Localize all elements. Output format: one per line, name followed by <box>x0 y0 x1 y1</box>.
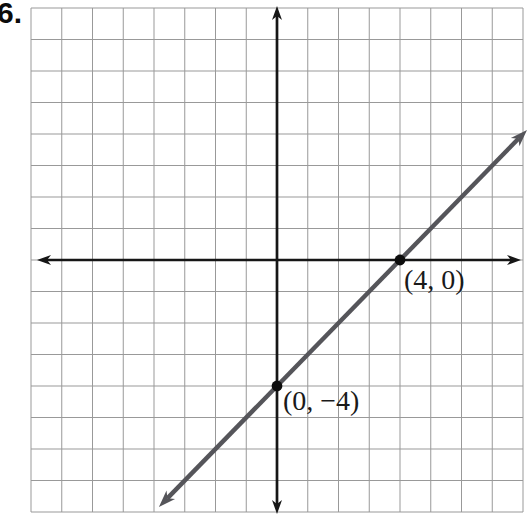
graph-figure: (4, 0)(0, −4) 6. <box>0 0 529 520</box>
coordinate-plane: (4, 0)(0, −4) <box>0 0 529 520</box>
data-point <box>272 381 283 392</box>
graphed-line <box>167 138 518 498</box>
point-label: (0, −4) <box>283 385 359 416</box>
exercise-number: 6. <box>0 0 22 28</box>
point-label: (4, 0) <box>404 264 465 295</box>
